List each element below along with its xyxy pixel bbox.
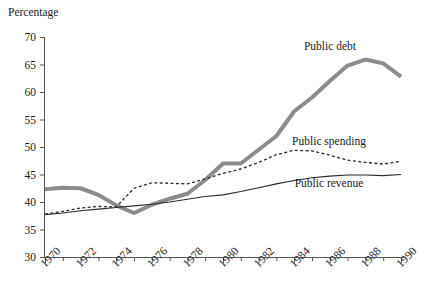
y-tick-label-55: 55 bbox=[25, 114, 37, 126]
chart-container: Percentage 303540455055606570 1970197219… bbox=[0, 0, 432, 304]
x-tick-label-1988: 1988 bbox=[358, 244, 383, 269]
x-tick-label-1974: 1974 bbox=[109, 244, 134, 269]
x-tick-label-1972: 1972 bbox=[74, 244, 99, 269]
y-tick-label-60: 60 bbox=[25, 86, 37, 98]
series-label-public-debt: Public debt bbox=[304, 40, 357, 52]
series-label-public-spending: Public spending bbox=[292, 135, 366, 148]
y-axis-title: Percentage bbox=[8, 6, 58, 19]
series-label-public-revenue: Public revenue bbox=[295, 177, 364, 189]
x-tick-label-1970: 1970 bbox=[38, 244, 63, 269]
x-axis-tick-group: 1970197219741976197819801982198419861988… bbox=[38, 244, 419, 269]
x-tick-label-1978: 1978 bbox=[180, 244, 205, 269]
x-tick-label-1976: 1976 bbox=[145, 244, 170, 269]
y-axis-tick-group: 303540455055606570 bbox=[25, 31, 46, 263]
y-tick-label-65: 65 bbox=[25, 59, 37, 71]
y-tick-label-45: 45 bbox=[25, 169, 37, 181]
x-tick-label-1990: 1990 bbox=[394, 244, 419, 269]
y-tick-label-50: 50 bbox=[25, 141, 37, 153]
y-tick-label-35: 35 bbox=[25, 224, 37, 236]
y-tick-label-70: 70 bbox=[25, 31, 37, 43]
y-tick-label-30: 30 bbox=[25, 251, 37, 263]
line-chart: Percentage 303540455055606570 1970197219… bbox=[0, 0, 432, 304]
x-tick-label-1980: 1980 bbox=[216, 244, 241, 269]
x-tick-label-1982: 1982 bbox=[252, 244, 277, 269]
y-tick-label-40: 40 bbox=[25, 196, 37, 208]
x-tick-label-1986: 1986 bbox=[323, 244, 348, 269]
x-tick-label-1984: 1984 bbox=[287, 244, 312, 269]
